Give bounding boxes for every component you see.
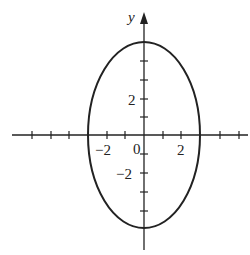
ellipse-chart: y 0 −2 2 2 −2 <box>0 0 250 255</box>
origin-label: 0 <box>133 141 141 157</box>
y-tick-label-2: 2 <box>128 92 136 108</box>
x-tick-label-neg2: −2 <box>95 142 111 158</box>
y-axis-arrow-icon <box>140 12 148 24</box>
y-tick-label-neg2: −2 <box>116 166 132 182</box>
x-tick-label-2: 2 <box>177 142 185 158</box>
y-axis-label: y <box>126 9 135 25</box>
